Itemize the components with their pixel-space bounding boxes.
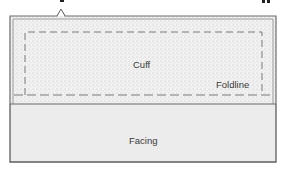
- facing-region: [10, 104, 276, 162]
- clipped-heading-fragments: [60, 0, 270, 3]
- foldline-label: Foldline: [216, 80, 249, 90]
- notch-marker-icon: [57, 9, 65, 16]
- facing-label: Facing: [129, 136, 158, 146]
- cuff-label: Cuff: [133, 60, 150, 70]
- cuff-pattern-diagram: Cuff Foldline Facing: [0, 0, 286, 174]
